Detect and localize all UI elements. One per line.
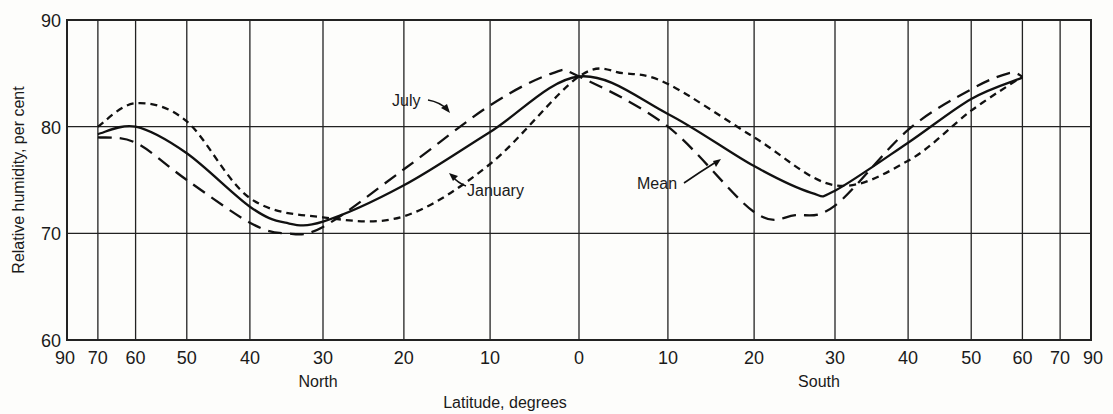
x-tick-label: 60 (1012, 348, 1032, 368)
y-tick-label: 80 (41, 118, 61, 138)
x-axis-title: Latitude, degrees (443, 394, 567, 411)
series-curves (98, 69, 1023, 235)
arrow-line (684, 162, 716, 183)
label-mean: Mean (637, 175, 677, 192)
hemisphere-south-label: South (798, 373, 840, 390)
y-tick-label: 90 (41, 11, 61, 31)
series-january (98, 69, 1023, 222)
label-july: July (392, 92, 420, 109)
x-tick-label: 40 (898, 348, 918, 368)
y-tick-labels: 60708090 (41, 11, 61, 351)
x-tick-label: 10 (480, 348, 500, 368)
x-tick-label: 20 (744, 348, 764, 368)
x-tick-label: 60 (126, 348, 146, 368)
y-tick-label: 70 (41, 224, 61, 244)
x-tick-label: 20 (394, 348, 414, 368)
x-tick-label: 70 (1050, 348, 1070, 368)
label-january: January (467, 182, 524, 199)
x-tick-label: 70 (88, 348, 108, 368)
arrowhead-icon (713, 159, 721, 167)
x-tick-label: 10 (658, 348, 678, 368)
annotation-mean: Mean (637, 159, 721, 192)
series-mean (98, 76, 1023, 225)
hemisphere-north-label: North (298, 373, 337, 390)
x-tick-labels: 907060504030201001020304050607090 (55, 348, 1103, 368)
x-tick-label: 90 (1083, 348, 1103, 368)
x-tick-label: 90 (55, 348, 75, 368)
x-tick-label: 40 (240, 348, 260, 368)
y-axis-title: Relative humidity, per cent (10, 86, 27, 274)
x-tick-label: 0 (574, 348, 584, 368)
x-tick-label: 30 (313, 348, 333, 368)
x-tick-label: 30 (825, 348, 845, 368)
x-tick-label: 50 (961, 348, 981, 368)
x-gridlines (98, 20, 1060, 340)
annotation-july: July (392, 92, 450, 113)
x-tick-label: 50 (177, 348, 197, 368)
humidity-latitude-chart: 60708090 9070605040302010010203040506070… (0, 0, 1113, 414)
